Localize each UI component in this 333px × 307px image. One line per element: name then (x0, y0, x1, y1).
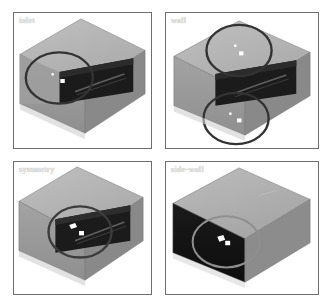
marker-square (237, 118, 241, 122)
marker-square (60, 79, 64, 83)
marker-square (79, 231, 84, 235)
panel-inlet[interactable]: inlet (13, 12, 152, 149)
marker-dot (234, 45, 236, 47)
panel-wall[interactable]: wall (165, 12, 319, 149)
inlet-diagram (14, 13, 151, 148)
marker-square (239, 51, 243, 55)
panel-sidewall[interactable]: side-wall (165, 161, 319, 295)
panel-symmetry[interactable]: symmetry (13, 161, 152, 295)
marker-dot (229, 113, 231, 115)
boundary-condition-figure: inlet (0, 0, 333, 307)
sidewall-diagram (166, 162, 318, 294)
marker-dot (51, 73, 53, 75)
marker-square (225, 241, 230, 245)
wall-diagram (166, 13, 318, 148)
symmetry-diagram (14, 162, 151, 294)
